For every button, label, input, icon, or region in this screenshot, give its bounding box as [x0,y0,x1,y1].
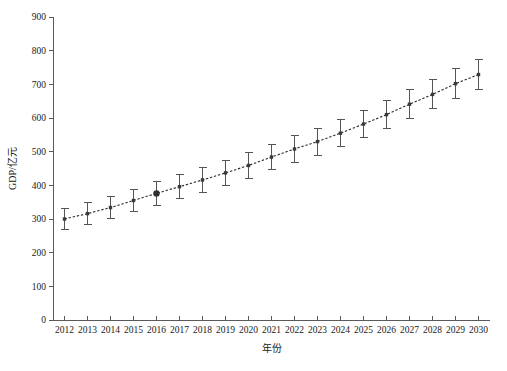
x-tick-label: 2022 [285,325,304,335]
y-tick-label: 200 [32,248,47,258]
data-point [270,155,273,158]
data-point [454,82,457,85]
y-tick-label: 900 [32,12,47,22]
y-tick-label: 100 [32,282,47,292]
x-tick-label: 2018 [193,325,212,335]
data-point [224,171,227,174]
chart-container: 0100200300400500600700800900 20122013201… [0,0,507,371]
data-point [385,113,388,116]
x-tick-label: 2020 [239,325,258,335]
data-series-gdp [61,59,483,229]
data-point [477,73,480,76]
x-tick-label: 2027 [400,325,419,335]
x-tick-label: 2019 [216,325,235,335]
y-tick-label: 400 [32,181,47,191]
y-axis-title: GDP/亿元 [6,147,18,190]
data-point [431,93,434,96]
data-point [408,102,411,105]
x-axis-title: 年份 [262,342,282,354]
y-tick-label: 0 [41,315,46,325]
data-point [132,199,135,202]
x-tick-label: 2028 [423,325,442,335]
gdp-forecast-chart: 0100200300400500600700800900 20122013201… [0,0,507,371]
y-tick-label: 700 [32,80,47,90]
y-tick-label: 800 [32,46,47,56]
x-tick-label: 2017 [170,325,189,335]
x-tick-label: 2025 [354,325,373,335]
data-point [63,217,66,220]
data-point [316,140,319,143]
x-axis: 2012201320142015201620172018201920202021… [53,316,490,335]
y-tick-label: 600 [32,113,47,123]
y-tick-label: 500 [32,147,47,157]
x-tick-label: 2026 [377,325,396,335]
data-point [178,185,181,188]
x-tick-label: 2021 [262,325,281,335]
x-tick-label: 2012 [55,325,74,335]
data-point [293,147,296,150]
data-point [86,212,89,215]
data-point [247,164,250,167]
data-point [201,178,204,181]
data-point-highlight [153,190,159,196]
data-point [109,206,112,209]
x-tick-label: 2029 [446,325,465,335]
x-tick-label: 2015 [124,325,143,335]
x-tick-label: 2013 [78,325,97,335]
x-tick-label: 2016 [147,325,166,335]
y-axis: 0100200300400500600700800900 [32,12,53,325]
x-tick-label: 2030 [469,325,488,335]
y-tick-label: 300 [32,214,47,224]
x-tick-label: 2014 [101,325,120,335]
data-point [362,122,365,125]
x-tick-label: 2023 [308,325,327,335]
data-point [339,131,342,134]
x-tick-label: 2024 [331,325,350,335]
